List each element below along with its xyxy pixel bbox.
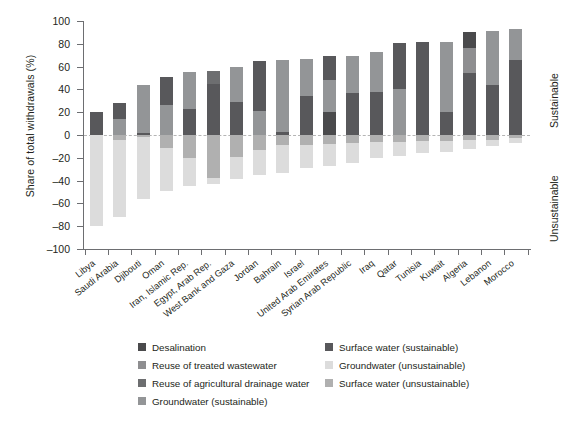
x-tick bbox=[458, 250, 459, 255]
y-tick bbox=[77, 249, 83, 250]
bar-segment bbox=[463, 140, 476, 149]
bar-segment bbox=[183, 135, 196, 158]
legend-item: Reuse of treated wastewater bbox=[138, 356, 309, 374]
y-tick-label: –80 bbox=[28, 220, 70, 232]
legend-swatch-icon bbox=[325, 361, 333, 369]
x-tick bbox=[341, 250, 342, 255]
x-tick bbox=[201, 250, 202, 255]
y-tick-label: 60 bbox=[28, 61, 70, 73]
bar-segment bbox=[323, 56, 336, 80]
x-tick bbox=[318, 250, 319, 255]
bar-segment bbox=[276, 60, 289, 132]
bar-segment bbox=[113, 103, 126, 119]
x-tick bbox=[364, 250, 365, 255]
legend-swatch-icon bbox=[138, 379, 146, 387]
bar-segment bbox=[370, 142, 383, 158]
annotation-sustainable: Sustainable bbox=[548, 73, 560, 128]
bar-segment bbox=[207, 178, 220, 184]
bar-segment bbox=[230, 135, 243, 157]
bar-segment bbox=[346, 56, 359, 92]
bar-segment bbox=[137, 85, 150, 133]
bar-segment bbox=[393, 135, 406, 142]
bar-segment bbox=[346, 135, 359, 143]
bar-segment bbox=[300, 145, 313, 168]
bar-segment bbox=[323, 135, 336, 144]
annotation-unsustainable: Unsustainable bbox=[548, 175, 560, 242]
y-tick-label: –40 bbox=[28, 175, 70, 187]
bar-segment bbox=[253, 135, 266, 150]
bar-segment bbox=[323, 144, 336, 166]
bar-segment bbox=[509, 60, 522, 135]
bar-segment bbox=[230, 102, 243, 135]
legend-label: Desalination bbox=[152, 342, 206, 353]
y-tick bbox=[77, 67, 83, 68]
y-tick bbox=[77, 181, 83, 182]
y-tick bbox=[77, 89, 83, 90]
legend-item: Surface water (unsustainable) bbox=[325, 374, 469, 392]
y-tick-label: 0 bbox=[28, 129, 70, 141]
legend-label: Surface water (sustainable) bbox=[339, 342, 458, 353]
bar-segment bbox=[183, 72, 196, 108]
x-tick bbox=[411, 250, 412, 255]
bar-segment bbox=[300, 135, 313, 145]
bar-segment bbox=[370, 52, 383, 92]
bar-segment bbox=[207, 84, 220, 135]
y-tick bbox=[77, 203, 83, 204]
bar-segment bbox=[207, 71, 220, 84]
bar-segment bbox=[253, 150, 266, 175]
bar-segment bbox=[440, 112, 453, 135]
legend-swatch-icon bbox=[138, 361, 146, 369]
x-tick bbox=[131, 250, 132, 255]
bar-segment bbox=[207, 135, 220, 178]
legend-item: Desalination bbox=[138, 338, 309, 356]
bar-segment bbox=[113, 140, 126, 218]
bar-segment bbox=[393, 142, 406, 156]
legend-item: Groundwater (unsustainable) bbox=[325, 356, 469, 374]
bar-segment bbox=[230, 67, 243, 102]
bar-segment bbox=[440, 141, 453, 152]
bar-segment bbox=[393, 43, 406, 90]
legend: DesalinationReuse of treated wastewaterR… bbox=[138, 338, 568, 416]
bar-segment bbox=[440, 42, 453, 113]
y-tick bbox=[77, 44, 83, 45]
legend-label: Surface water (unsustainable) bbox=[339, 378, 469, 389]
bar-segment bbox=[486, 31, 499, 85]
y-tick-label: –20 bbox=[28, 152, 70, 164]
bar-segment bbox=[323, 112, 336, 135]
legend-swatch-icon bbox=[138, 397, 146, 405]
y-axis-title: Share of total withdrawals (%) bbox=[24, 31, 40, 221]
x-tick bbox=[434, 250, 435, 255]
x-tick bbox=[108, 250, 109, 255]
bar-segment bbox=[90, 135, 103, 226]
legend-column-1: DesalinationReuse of treated wastewaterR… bbox=[138, 338, 309, 410]
bar-segment bbox=[113, 119, 126, 135]
legend-label: Reuse of treated wastewater bbox=[152, 360, 277, 371]
bar-segment bbox=[370, 92, 383, 135]
bar-segment bbox=[463, 48, 476, 73]
y-tick bbox=[77, 112, 83, 113]
bar-segment bbox=[300, 96, 313, 135]
bar-segment bbox=[346, 143, 359, 164]
legend-item: Reuse of agricultural drainage water bbox=[138, 374, 309, 392]
x-tick bbox=[178, 250, 179, 255]
x-tick bbox=[85, 250, 86, 255]
legend-swatch-icon bbox=[325, 343, 333, 351]
y-tick-label: 100 bbox=[28, 15, 70, 27]
legend-label: Groundwater (sustainable) bbox=[152, 396, 267, 407]
legend-swatch-icon bbox=[325, 379, 333, 387]
bar-segment bbox=[509, 29, 522, 60]
bar-segment bbox=[463, 73, 476, 135]
x-tick bbox=[504, 250, 505, 255]
bar-segment bbox=[183, 158, 196, 187]
bar-segment bbox=[416, 141, 429, 154]
y-tick-label: 20 bbox=[28, 106, 70, 118]
bar-segment bbox=[160, 148, 173, 191]
y-tick-label: –100 bbox=[28, 243, 70, 255]
bar-segment bbox=[370, 135, 383, 142]
bar-segment bbox=[276, 145, 289, 172]
x-tick bbox=[528, 250, 529, 255]
x-axis-line bbox=[83, 249, 531, 250]
bar-segment bbox=[253, 61, 266, 111]
bar-segment bbox=[486, 85, 499, 135]
bar-segment bbox=[509, 138, 522, 143]
